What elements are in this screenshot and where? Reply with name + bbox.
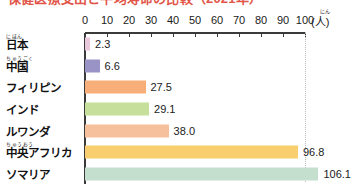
bar-value-1: 6.6 [105, 60, 120, 72]
x-tick-label-90: 90 [277, 14, 289, 26]
x-tick-label-40: 40 [167, 14, 179, 26]
x-tick-label-30: 30 [145, 14, 157, 26]
bar-value-6: 106.1 [323, 168, 351, 180]
chart-row: ソマリア106.1 [0, 163, 337, 185]
chart-row: ルワンダ38.0 [0, 120, 337, 142]
x-tick-label-0: 0 [82, 14, 88, 26]
x-axis-unit: (人) [311, 13, 329, 29]
bar-4[interactable] [85, 124, 169, 137]
category-label-4: ルワンダ [6, 123, 50, 139]
chart-title: 保健医療支出と平均寿命の比較（2021年） [8, 0, 262, 7]
x-tick-label-60: 60 [211, 14, 223, 26]
bar-0[interactable] [85, 37, 90, 50]
category-label-1: 中国 [6, 58, 28, 74]
category-label-6: ソマリア [6, 166, 50, 182]
chart-row: にほん日本2.3 [0, 33, 337, 55]
category-label-3: インド [6, 101, 39, 117]
bar-value-0: 2.3 [95, 38, 110, 50]
category-label-2: フィリピン [6, 79, 61, 95]
bar-value-5: 96.8 [303, 146, 324, 158]
bar-value-4: 38.0 [174, 125, 195, 137]
x-tick-label-10: 10 [101, 14, 113, 26]
category-label-0: 日本 [6, 36, 28, 52]
bar-5[interactable] [85, 146, 298, 159]
x-tick-label-50: 50 [189, 14, 201, 26]
bar-1[interactable] [85, 59, 100, 72]
x-tick-label-20: 20 [123, 14, 135, 26]
chart-title-strip: 保健医療支出と平均寿命の比較（2021年） [0, 0, 337, 7]
plot-area: にほん日本2.3ちゅうごく中国6.6フィリピン27.5インド29.1ルワンダ38… [0, 33, 337, 185]
bar-2[interactable] [85, 81, 146, 94]
bar-value-2: 27.5 [151, 81, 172, 93]
bar-value-3: 29.1 [154, 103, 175, 115]
x-tick-label-70: 70 [233, 14, 245, 26]
x-axis: 0102030405060708090100 にん (人) [0, 12, 337, 34]
chart-row: ちゅうおう中央アフリカ96.8 [0, 141, 337, 163]
category-label-5: 中央アフリカ [6, 144, 72, 160]
x-tick-label-80: 80 [255, 14, 267, 26]
bar-6[interactable] [85, 167, 318, 180]
chart-row: インド29.1 [0, 98, 337, 120]
chart-row: フィリピン27.5 [0, 76, 337, 98]
chart-row: ちゅうごく中国6.6 [0, 55, 337, 77]
bar-3[interactable] [85, 102, 149, 115]
